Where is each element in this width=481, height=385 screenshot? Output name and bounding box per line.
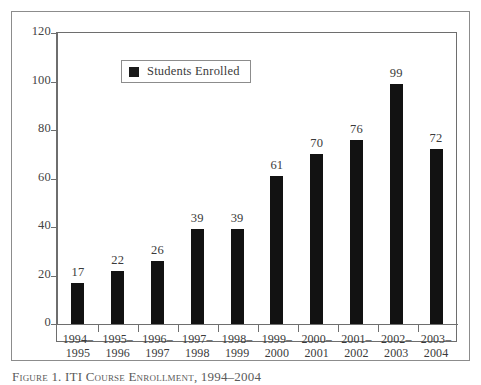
y-axis-tick: 80 (13, 130, 63, 131)
bar-group[interactable]: 76 (337, 33, 377, 324)
x-axis-category-label: 2003–2004 (416, 332, 456, 360)
bar-value-label: 26 (138, 243, 178, 258)
x-axis-category-label-line: 1997– (177, 332, 217, 346)
y-axis-tick: 60 (13, 179, 63, 180)
x-axis-category-label-line: 2002– (376, 332, 416, 346)
x-axis-category-label: 2000–2001 (297, 332, 337, 360)
y-axis-tick: 0 (13, 324, 63, 325)
bar-value-label: 70 (297, 136, 337, 151)
bar[interactable] (430, 149, 443, 324)
bar-group[interactable]: 99 (376, 33, 416, 324)
plot-area: 020406080100120 17222639396170769972 (57, 33, 456, 324)
bar-value-label: 76 (337, 122, 377, 137)
bar[interactable] (231, 229, 244, 324)
x-axis-category-label: 1996–1997 (138, 332, 178, 360)
y-axis-tick-mark (51, 130, 58, 131)
y-axis-tick-label: 20 (38, 267, 51, 282)
y-axis-tick: 100 (13, 82, 63, 83)
x-axis-category-label-line: 2004 (416, 346, 456, 360)
x-axis-tick-mark (138, 325, 139, 332)
x-axis-category-label: 1997–1998 (177, 332, 217, 360)
x-axis-category-label-line: 1998 (177, 346, 217, 360)
x-axis-category-label-line: 2001 (297, 346, 337, 360)
x-axis-category-label-line: 1994– (58, 332, 98, 346)
y-axis-tick-mark (51, 227, 58, 228)
x-axis-category-label: 1999–2000 (257, 332, 297, 360)
y-axis-tick-mark (51, 33, 58, 34)
x-axis-category-label-line: 1996– (138, 332, 178, 346)
x-axis-category-label-line: 1995 (58, 346, 98, 360)
x-axis-category-label-line: 1998– (217, 332, 257, 346)
bar-value-label: 17 (58, 265, 98, 280)
x-axis-category-label: 1995–1996 (98, 332, 138, 360)
x-axis-labels: 1994–19951995–19961996–19971997–19981998… (58, 332, 456, 360)
legend-label: Students Enrolled (147, 64, 240, 79)
x-axis-category-label: 2002–2003 (376, 332, 416, 360)
y-axis-tick: 20 (13, 276, 63, 277)
y-axis-tick-mark (51, 324, 58, 325)
x-axis-tick-mark (178, 325, 179, 332)
bar-group[interactable]: 61 (257, 33, 297, 324)
x-axis-tick-mark (218, 325, 219, 332)
x-axis-category-label-line: 2002 (337, 346, 377, 360)
bar-value-label: 39 (177, 211, 217, 226)
y-axis-tick-label: 80 (38, 121, 51, 136)
x-axis-category-label-line: 1996 (98, 346, 138, 360)
bar-value-label: 39 (217, 211, 257, 226)
bar-value-label: 99 (376, 66, 416, 81)
y-axis-tick-mark (51, 179, 58, 180)
bar[interactable] (350, 140, 363, 324)
x-axis-category-label-line: 2001– (337, 332, 377, 346)
x-axis-category-label-line: 1999 (217, 346, 257, 360)
figure-caption: Figure 1. ITI Course Enrollment, 1994–20… (12, 369, 261, 385)
chart-legend: Students Enrolled (121, 60, 251, 83)
x-axis-tick-mark (338, 325, 339, 332)
bar-series: 17222639396170769972 (58, 33, 456, 324)
x-axis-tick-mark (298, 325, 299, 332)
y-axis-tick: 120 (13, 33, 63, 34)
bar[interactable] (191, 229, 204, 324)
y-axis-tick-mark (51, 276, 58, 277)
y-axis-tick-label: 0 (45, 315, 51, 330)
x-axis-tick-mark (258, 325, 259, 332)
bar[interactable] (151, 261, 164, 324)
x-axis-category-label-line: 1995– (98, 332, 138, 346)
bar-value-label: 72 (416, 131, 456, 146)
x-axis-category-label: 1998–1999 (217, 332, 257, 360)
bar-group[interactable]: 17 (58, 33, 98, 324)
bar-group[interactable]: 70 (297, 33, 337, 324)
x-axis-category-label-line: 2000 (257, 346, 297, 360)
bar-value-label: 61 (257, 158, 297, 173)
x-axis-category-label: 1994–1995 (58, 332, 98, 360)
x-axis-category-label-line: 1997 (138, 346, 178, 360)
bar[interactable] (390, 84, 403, 324)
bar[interactable] (71, 283, 84, 324)
x-axis-category-label-line: 2003– (416, 332, 456, 346)
y-axis-tick-mark (51, 82, 58, 83)
y-axis-tick-label: 60 (38, 170, 51, 185)
x-axis-tick-mark (98, 325, 99, 332)
x-axis-category-label-line: 2000– (297, 332, 337, 346)
plot-frame: 020406080100120 17222639396170769972 199… (56, 32, 457, 342)
bar[interactable] (310, 154, 323, 324)
y-axis-tick-label: 40 (38, 218, 51, 233)
bar[interactable] (111, 271, 124, 324)
bar[interactable] (270, 176, 283, 324)
x-axis-category-label: 2001–2002 (337, 332, 377, 360)
y-axis-tick-label: 120 (32, 24, 51, 39)
bar-group[interactable]: 72 (416, 33, 456, 324)
x-axis-tick-mark (418, 325, 419, 332)
figure-outer-frame: 020406080100120 17222639396170769972 199… (11, 11, 470, 361)
x-axis-tick-mark (378, 325, 379, 332)
y-axis-tick: 40 (13, 227, 63, 228)
legend-swatch-icon (129, 67, 139, 77)
x-axis-category-label-line: 1999– (257, 332, 297, 346)
bar-value-label: 22 (98, 253, 138, 268)
x-axis-category-label-line: 2003 (376, 346, 416, 360)
y-axis-tick-label: 100 (32, 73, 51, 88)
x-axis-ticks (58, 325, 456, 332)
